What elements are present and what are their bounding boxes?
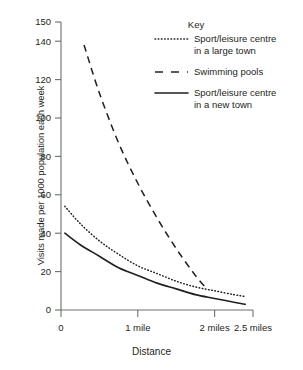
legend-label: Sport/leisure centre: [194, 33, 276, 44]
y-tick-label: 60: [40, 189, 51, 200]
y-tick-label: 0: [46, 304, 51, 315]
legend-label: Swimming pools: [194, 66, 263, 77]
legend-label-cont: in a new town: [194, 99, 252, 110]
chart-legend: Key Sport/leisure centrein a large townS…: [155, 19, 276, 110]
x-axis-ticks: 01 mile2 miles2.5 miles: [58, 310, 272, 333]
x-tick-label: 2.5 miles: [234, 322, 272, 333]
legend-label: Sport/leisure centre: [194, 87, 276, 98]
y-tick-label: 20: [40, 266, 51, 277]
x-tick-label: 2 miles: [200, 322, 230, 333]
series-line-3: [65, 233, 245, 304]
y-tick-label: 150: [35, 16, 51, 27]
data-series-group: [65, 45, 245, 304]
legend-label-cont: in a large town: [194, 45, 256, 56]
y-tick-label: 100: [35, 112, 51, 123]
y-tick-label: 140: [35, 36, 51, 47]
series-line-2: [84, 45, 207, 289]
y-tick-label: 80: [40, 151, 51, 162]
y-axis-ticks: 020406080100120140150: [35, 16, 61, 315]
y-tick-label: 40: [40, 228, 51, 239]
y-tick-label: 120: [35, 74, 51, 85]
legend-title: Key: [188, 19, 205, 30]
x-tick-label: 0: [58, 322, 63, 333]
x-tick-label: 1 mile: [125, 322, 150, 333]
plot-area: 020406080100120140150 01 mile2 miles2.5 …: [0, 0, 303, 370]
chart-figure: Visits made per 1000 population each wee…: [0, 0, 303, 370]
